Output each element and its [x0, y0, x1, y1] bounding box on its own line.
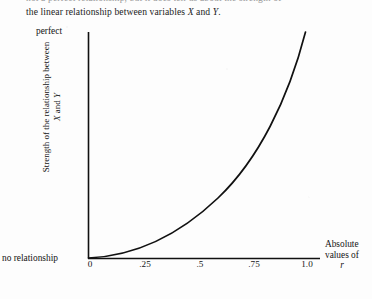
y-axis-title-var-y: Y — [52, 93, 62, 98]
y-axis-title: Strength of the relationship between X a… — [41, 38, 69, 176]
y-axis-title-line1: Strength of the relationship between — [41, 38, 52, 176]
x-axis-title-line1: Absolute — [325, 239, 359, 249]
y-axis-title-var-x: X — [52, 116, 62, 122]
x-axis-title-symbol-r: r — [325, 260, 359, 271]
x-axis-title: Absolute values of r — [325, 239, 371, 271]
x-tick-label-05: .5 — [187, 259, 213, 269]
x-tick-label-075: .75 — [241, 259, 267, 269]
y-axis-title-line2: X and Y — [52, 38, 63, 176]
x-tick-label-10: 1.0 — [294, 259, 320, 269]
x-tick-label-0: 0 — [77, 259, 103, 269]
figure-page: not a perfect relationship, but it does … — [0, 0, 372, 299]
strength-curve — [89, 32, 306, 258]
x-tick-label-025: .25 — [132, 259, 158, 269]
y-axis-bottom-label: no relationship — [2, 253, 58, 264]
y-axis-top-label: perfect — [36, 26, 62, 37]
y-axis-title-and: and — [52, 98, 62, 116]
x-axis-title-line2: values of — [325, 250, 359, 260]
correlation-strength-chart: perfect no relationship Strength of the … — [0, 0, 372, 299]
